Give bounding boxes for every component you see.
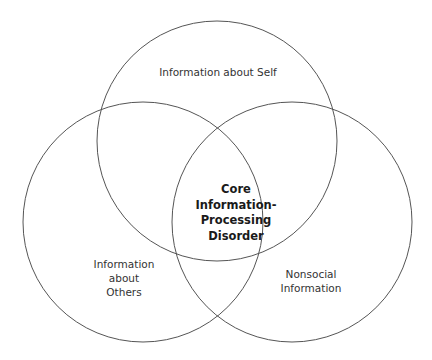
label-self-text: Information about Self (159, 65, 277, 79)
label-others-line-2: about (94, 271, 155, 285)
label-self: Information about Self (159, 65, 277, 79)
label-others-line-1: Information (94, 257, 155, 271)
label-others-line-3: Others (94, 285, 155, 299)
label-core-line-1: Core (195, 182, 276, 198)
label-nonsocial-line-2: Information (281, 281, 342, 295)
label-core: Core Information- Processing Disorder (195, 182, 276, 244)
label-nonsocial: Nonsocial Information (281, 267, 342, 295)
venn-diagram: Information about Self Information about… (0, 0, 432, 360)
label-core-line-3: Processing (195, 213, 276, 229)
label-core-line-4: Disorder (195, 229, 276, 245)
label-core-line-2: Information- (195, 198, 276, 214)
label-nonsocial-line-1: Nonsocial (281, 267, 342, 281)
label-others: Information about Others (94, 257, 155, 299)
venn-circles (0, 0, 432, 360)
